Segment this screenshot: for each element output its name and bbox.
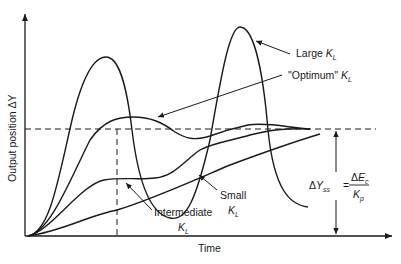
label-intermediate-kl: KL — [178, 221, 189, 235]
label-small-kl: KL — [228, 204, 239, 218]
numerator-delta-ec: ΔEc — [351, 171, 369, 185]
curve-small-kl — [28, 134, 320, 236]
label-small: Small — [220, 189, 246, 201]
delta-yss-symbol: ΔYss — [309, 179, 331, 193]
equals-sign: = — [343, 179, 349, 191]
x-axis-label: Time — [198, 242, 221, 254]
arrow-small-kl — [199, 175, 217, 190]
label-optimum-kl: "Optimum" KL — [288, 69, 352, 83]
figure-canvas: Large KL "Optimum" KL Intermediate KL Sm… — [0, 0, 401, 264]
denominator-kp: Kp — [353, 188, 364, 203]
response-diagram: Large KL "Optimum" KL Intermediate KL Sm… — [0, 0, 401, 264]
label-intermediate: Intermediate — [154, 206, 213, 218]
label-large-kl: Large KL — [296, 47, 337, 61]
arrow-large-kl — [256, 41, 290, 54]
y-axis-label: Output position ΔY — [6, 94, 18, 182]
